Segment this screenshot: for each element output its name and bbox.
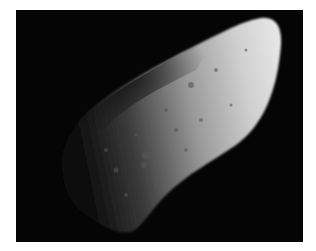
asteroid-illustration	[16, 10, 303, 242]
asteroid-photo	[16, 10, 303, 242]
